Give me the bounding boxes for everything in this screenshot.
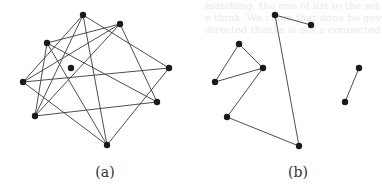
edge-H-I <box>345 68 359 102</box>
graph-b <box>212 12 362 149</box>
edge-T-L <box>23 15 83 82</box>
node-D <box>260 65 266 71</box>
edge-A-B <box>275 15 311 25</box>
edge-A-G <box>275 15 299 146</box>
edge-UR-L <box>23 24 120 82</box>
node-LL <box>32 113 38 119</box>
edge-C-D <box>239 44 263 68</box>
caption-b: (b) <box>288 164 308 180</box>
edge-F-G <box>227 117 299 146</box>
node-UR <box>117 21 123 27</box>
node-RL <box>154 99 160 105</box>
node-A <box>272 12 278 18</box>
edge-D-F <box>227 68 263 117</box>
edge-T-B <box>83 15 107 145</box>
node-E <box>212 79 218 85</box>
node-T <box>80 12 86 18</box>
node-I <box>342 99 348 105</box>
node-H <box>356 65 362 71</box>
edge-T-LL <box>35 15 83 116</box>
edge-UR-LL <box>35 24 120 116</box>
node-C <box>68 65 74 71</box>
node-R <box>166 65 172 71</box>
edge-R-L <box>23 68 169 82</box>
node-B <box>308 22 314 28</box>
node-UL <box>44 40 50 46</box>
graph-a <box>20 12 172 148</box>
edge-UL-RL <box>47 43 157 102</box>
node-F <box>224 114 230 120</box>
node-G <box>296 143 302 149</box>
caption-a: (a) <box>95 164 114 180</box>
graph-figures <box>0 0 382 189</box>
node-B <box>104 142 110 148</box>
node-C <box>236 41 242 47</box>
edge-UR-UL <box>47 24 120 43</box>
node-L <box>20 79 26 85</box>
edge-RL-LL <box>35 102 157 116</box>
edge-T-R <box>83 15 169 68</box>
